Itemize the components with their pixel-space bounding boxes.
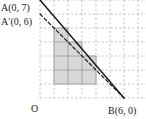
shaded-region: [54, 28, 96, 84]
point-label-a: A(0, 7): [1, 3, 30, 13]
origin-label: O: [31, 104, 38, 114]
point-label-b: B(6, 0): [108, 106, 136, 116]
math-figure: A(0, 7) A′(0, 6) O B(6, 0): [0, 0, 146, 119]
point-label-a-prime: A′(0, 6): [1, 17, 32, 27]
